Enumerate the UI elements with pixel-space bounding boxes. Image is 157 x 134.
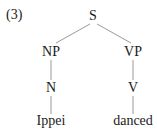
edge-s-vp: [97, 24, 131, 43]
node-vp: VP: [124, 45, 142, 59]
leaf-ippei: Ippei: [37, 114, 66, 128]
node-s: S: [89, 9, 97, 23]
leaf-danced: danced: [113, 114, 153, 128]
node-np: NP: [42, 45, 60, 59]
node-v: V: [128, 81, 138, 95]
example-number: (3): [6, 8, 22, 22]
edge-s-np: [56, 24, 90, 43]
node-n: N: [46, 81, 56, 95]
